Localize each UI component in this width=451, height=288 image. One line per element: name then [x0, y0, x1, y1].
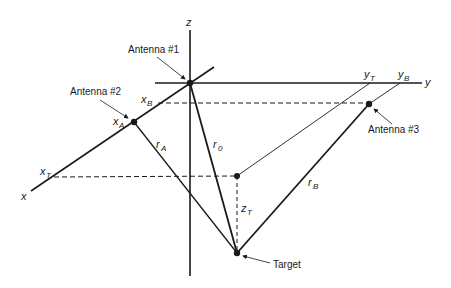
z-axis-label: z: [185, 16, 192, 28]
svg-text:B: B: [404, 74, 410, 83]
xt-dashed-line: [54, 176, 237, 177]
label-r-0: r 0: [213, 138, 223, 153]
antenna-geometry-diagram: z y x Antenna #1 Antenna #2 Antenna #3 T…: [0, 0, 451, 288]
label-x-b: x B: [140, 93, 153, 108]
target-pointer: [243, 256, 270, 263]
svg-text:B: B: [313, 182, 319, 191]
svg-text:B: B: [147, 99, 153, 108]
antenna-1-pointer: [157, 57, 185, 79]
label-r-a: r A: [156, 138, 166, 153]
label-y-b: y B: [397, 68, 410, 83]
svg-text:T: T: [46, 171, 52, 180]
target-point: [234, 250, 240, 256]
y-axis-label: y: [424, 76, 432, 88]
antenna-1-point: [187, 80, 193, 86]
label-x-t: x T: [39, 165, 52, 180]
label-r-b: r B: [308, 176, 319, 191]
rb-line: [237, 104, 369, 253]
svg-text:0: 0: [218, 144, 223, 153]
label-z-t: z T: [240, 202, 253, 217]
label-y-t: y T: [363, 68, 376, 83]
svg-text:x: x: [140, 93, 147, 105]
antenna-3-point: [366, 101, 372, 107]
svg-text:x: x: [112, 115, 119, 127]
label-x-a: x A: [112, 115, 124, 130]
x-axis-label: x: [20, 190, 27, 202]
svg-text:x: x: [39, 165, 46, 177]
antenna-2-point: [131, 119, 137, 125]
projection-point: [234, 173, 240, 179]
svg-text:T: T: [247, 208, 253, 217]
svg-text:A: A: [160, 144, 166, 153]
svg-text:T: T: [370, 74, 376, 83]
target-label: Target: [273, 259, 301, 270]
antenna-3-label: Antenna #3: [368, 124, 420, 135]
antenna-3-pointer: [374, 109, 392, 124]
ra-line: [134, 122, 237, 253]
antenna-1-label: Antenna #1: [128, 44, 180, 55]
antenna-2-label: Antenna #2: [70, 86, 122, 97]
yt-projection-line: [237, 83, 370, 176]
yb-projection-line: [369, 83, 400, 104]
svg-text:z: z: [240, 202, 247, 214]
r0-line: [190, 83, 237, 253]
svg-text:A: A: [118, 121, 124, 130]
